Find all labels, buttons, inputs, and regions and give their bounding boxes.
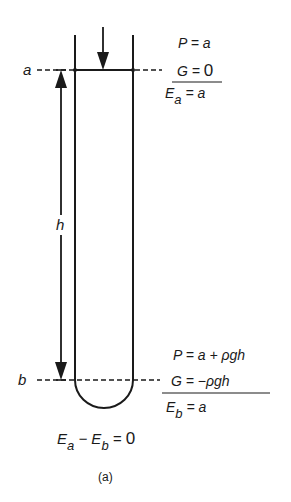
result-rhs: 0 bbox=[126, 429, 135, 448]
bottom-energy-symbol: E bbox=[166, 399, 175, 415]
result-sub1: a bbox=[67, 438, 74, 453]
top-gravity-lhs: G = bbox=[177, 63, 204, 79]
bottom-energy-rhs: = a bbox=[183, 399, 207, 415]
result-sub2: b bbox=[101, 438, 108, 453]
result-e2: E bbox=[91, 430, 101, 447]
bottom-pressure-eq: P = a + ρgh bbox=[173, 348, 245, 362]
result-e1: E bbox=[57, 430, 67, 447]
top-gravity-rhs: 0 bbox=[204, 61, 213, 80]
down-arrow-icon bbox=[97, 27, 109, 70]
top-gravity-eq: G = 0 bbox=[177, 62, 213, 79]
u-tube-diagram bbox=[0, 0, 291, 502]
result-minus: − bbox=[74, 430, 91, 447]
figure-caption: (a) bbox=[98, 470, 113, 484]
energy-difference-eq: Ea − Eb = 0 bbox=[57, 430, 135, 447]
top-energy-symbol: E bbox=[165, 85, 174, 101]
bottom-energy-eq: Eb = a bbox=[166, 400, 206, 414]
result-equals: = bbox=[109, 430, 126, 447]
height-label-h: h bbox=[56, 217, 64, 232]
level-label-a: a bbox=[23, 62, 31, 77]
level-label-b: b bbox=[18, 372, 26, 387]
bottom-gravity-eq: G = −ρgh bbox=[171, 374, 230, 388]
top-energy-rhs: = a bbox=[182, 85, 206, 101]
top-pressure-eq: P = a bbox=[178, 36, 211, 50]
u-tube bbox=[75, 35, 133, 408]
top-energy-eq: Ea = a bbox=[165, 86, 205, 100]
bottom-energy-subscript: b bbox=[175, 406, 182, 421]
top-energy-subscript: a bbox=[174, 92, 181, 107]
